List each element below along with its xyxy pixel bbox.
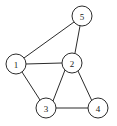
graph-canvas: 12345 bbox=[0, 0, 117, 126]
graph-node-label-1: 1 bbox=[14, 60, 19, 70]
graph-node-3: 3 bbox=[36, 98, 56, 118]
graph-node-2: 2 bbox=[62, 53, 82, 73]
graph-edge-2-3 bbox=[53, 70, 65, 101]
graph-node-label-5: 5 bbox=[80, 12, 85, 22]
graph-edge-2-4 bbox=[78, 71, 92, 101]
graph-node-5: 5 bbox=[72, 6, 92, 26]
graph-node-1: 1 bbox=[6, 54, 26, 74]
graph-node-4: 4 bbox=[88, 98, 108, 118]
graph-edge-1-3 bbox=[22, 72, 40, 100]
graph-edge-1-5 bbox=[24, 22, 74, 58]
node-layer: 12345 bbox=[6, 6, 108, 118]
graph-node-label-3: 3 bbox=[44, 104, 49, 114]
graph-edge-2-5 bbox=[75, 26, 80, 53]
graph-edge-1-2 bbox=[26, 63, 62, 64]
graph-node-label-2: 2 bbox=[70, 59, 75, 69]
graph-node-label-4: 4 bbox=[96, 104, 101, 114]
graph-figure: 12345 bbox=[0, 0, 117, 126]
